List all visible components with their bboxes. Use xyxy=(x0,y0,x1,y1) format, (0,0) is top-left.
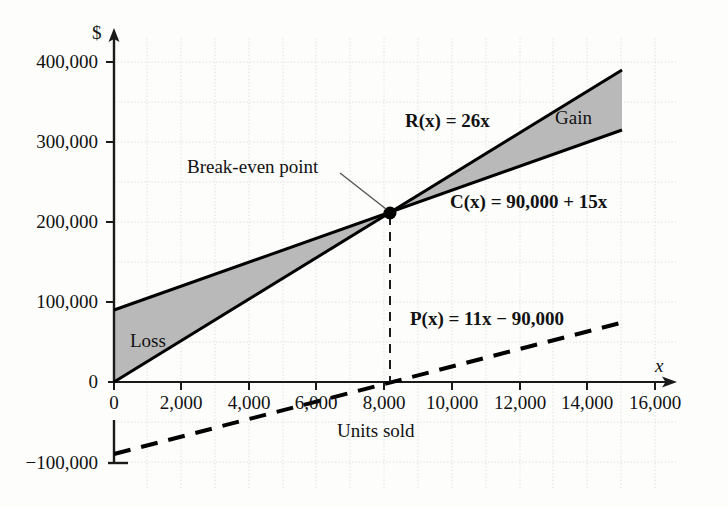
x-axis-ticks xyxy=(114,382,655,390)
y-tick-label-0: 0 xyxy=(0,372,98,391)
x-tick-label-16000: 16,000 xyxy=(615,393,695,412)
y-tick-label-300000: 300,000 xyxy=(0,132,98,151)
revenue-equation-text: R(x) = 26x xyxy=(405,110,490,131)
y-tick-label-100000: 100,000 xyxy=(0,292,98,311)
cost-equation-text: C(x) = 90,000 + 15x xyxy=(450,191,607,212)
cost-equation-label: C(x) = 90,000 + 15x xyxy=(450,192,607,211)
profit-equation-label: P(x) = 11x − 90,000 xyxy=(410,309,564,328)
loss-region-label: Loss xyxy=(130,331,166,350)
break-even-annotation-label: Break-even point xyxy=(187,157,318,176)
x-axis-symbol-label: x xyxy=(655,356,663,375)
y-tick-label-negative-100000: −100,000 xyxy=(0,453,98,472)
y-tick-label-400000: 400,000 xyxy=(0,52,98,71)
y-axis-negative-segment xyxy=(108,420,128,463)
y-axis-symbol-label: $ xyxy=(92,23,102,42)
x-axis-title: Units sold xyxy=(337,421,415,440)
revenue-line xyxy=(114,70,622,382)
profit-equation-text: P(x) = 11x − 90,000 xyxy=(410,308,564,329)
break-even-leader-line xyxy=(340,173,386,209)
y-tick-label-200000: 200,000 xyxy=(0,212,98,231)
gain-region-label: Gain xyxy=(555,108,592,127)
break-even-analysis-chart: 400,000 300,000 200,000 100,000 0 −100,0… xyxy=(0,0,728,507)
revenue-equation-label: R(x) = 26x xyxy=(405,111,490,130)
